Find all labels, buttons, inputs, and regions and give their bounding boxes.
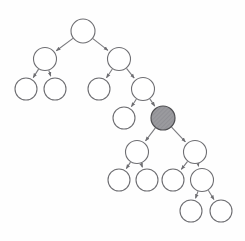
tree-edge	[49, 70, 51, 76]
tree-node[interactable]	[126, 141, 149, 164]
tree-node[interactable]	[44, 78, 66, 100]
binary-tree-diagram	[0, 0, 245, 241]
node-circle	[151, 106, 175, 130]
node-circle	[210, 200, 232, 222]
tree-edge	[33, 69, 38, 77]
tree-node[interactable]	[15, 78, 37, 100]
tree-node[interactable]	[184, 141, 207, 164]
node-circle	[162, 169, 184, 191]
node-circle	[136, 169, 158, 191]
tree-edge	[150, 99, 155, 106]
node-circle	[113, 107, 135, 129]
tree-edge	[131, 99, 136, 107]
tree-edge	[106, 69, 112, 78]
tree-edge	[56, 38, 73, 50]
node-circle	[88, 78, 110, 100]
node-circle	[34, 48, 57, 71]
tree-node-highlighted[interactable]	[151, 106, 175, 130]
node-circle	[132, 78, 155, 101]
tree-edge	[126, 162, 130, 169]
node-circle	[180, 200, 202, 222]
tree-edge	[208, 190, 214, 199]
tree-node[interactable]	[210, 200, 232, 222]
tree-edge	[181, 161, 187, 169]
node-circle	[71, 19, 95, 43]
node-circle	[126, 141, 149, 164]
node-circle	[15, 78, 37, 100]
tree-node[interactable]	[180, 200, 202, 222]
tree-node[interactable]	[191, 169, 214, 192]
tree-node[interactable]	[88, 78, 110, 100]
tree-node[interactable]	[136, 169, 158, 191]
tree-edge	[93, 39, 108, 51]
tree-edge	[141, 163, 142, 167]
tree-canvas	[0, 0, 245, 241]
tree-node[interactable]	[108, 169, 130, 191]
tree-edge	[172, 127, 186, 142]
node-circle	[108, 169, 130, 191]
node-circle	[44, 78, 66, 100]
tree-node[interactable]	[71, 19, 95, 43]
tree-edge	[198, 164, 199, 167]
tree-node[interactable]	[34, 48, 57, 71]
node-circle	[184, 141, 207, 164]
tree-edge	[126, 68, 134, 78]
tree-node[interactable]	[162, 169, 184, 191]
tree-node[interactable]	[108, 48, 131, 71]
tree-edge	[146, 128, 156, 141]
tree-edge	[196, 191, 198, 198]
tree-node[interactable]	[132, 78, 155, 101]
node-circle	[108, 48, 131, 71]
node-circle	[191, 169, 214, 192]
tree-nodes-group	[15, 19, 232, 222]
tree-node[interactable]	[113, 107, 135, 129]
